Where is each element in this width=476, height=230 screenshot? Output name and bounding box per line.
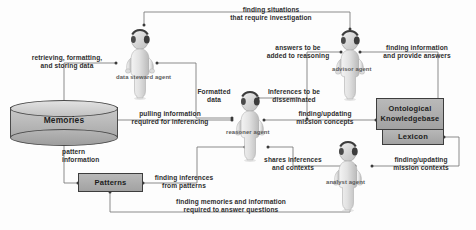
node-patterns-label: Patterns xyxy=(95,178,127,187)
node-patterns[interactable]: Patterns xyxy=(78,173,143,192)
edge-label-line2: and storing data xyxy=(12,62,122,70)
edge-label-pulling-information: pulling information required for inferen… xyxy=(120,110,220,127)
edge-label-line2: data xyxy=(190,96,238,104)
agent-data-steward-agent-caption: data steward agent xyxy=(116,74,171,80)
edge-label-finding-memories: finding memories and information require… xyxy=(140,198,322,215)
node-ontological-knowledgebase-label-line2: Knowledgebase xyxy=(381,114,440,124)
edge-label-line1: finding memories and information xyxy=(140,198,322,206)
agent-advisor-agent[interactable] xyxy=(330,29,370,101)
edge-label-line2: required to answer questions xyxy=(140,206,322,214)
edge-label-line2: information xyxy=(62,156,126,164)
edge-label-line1: finding/updating xyxy=(282,110,368,118)
edge-label-line1: Inferences to be xyxy=(253,88,335,96)
edge-label-answers-to-be-added: answers to be added to reasoning xyxy=(255,44,341,61)
agent-advisor-agent-caption: advisor agent xyxy=(332,66,372,72)
edge-label-retrieving-formatting: retrieving, formatting, and storing data xyxy=(12,54,122,71)
edge-label-pattern-information: pattern information xyxy=(62,148,126,165)
edge-label-formatted-data: Formatted data xyxy=(190,88,238,105)
agent-data-steward-agent[interactable] xyxy=(120,28,160,100)
cylinder-bottom xyxy=(10,129,118,146)
edge-label-line2: disseminated xyxy=(253,96,335,104)
edge-label-line1: pulling information xyxy=(120,110,220,118)
edge-label-line2: required for inferencing xyxy=(120,118,220,126)
node-ontological-knowledgebase[interactable]: Ontological Knowledgebase xyxy=(376,98,444,130)
diagram-canvas: .w{stroke:#777;stroke-width:.85;fill:non… xyxy=(0,0,476,230)
edge-label-line1: finding inferences xyxy=(146,174,222,182)
edge-label-line1: answers to be xyxy=(255,44,341,52)
node-memories-label: Memories xyxy=(10,115,118,125)
edge-label-line1: shares inferences xyxy=(254,156,332,164)
edge-label-finding-updating-contexts: finding/updating mission contexts xyxy=(378,156,464,173)
agent-analyst-agent[interactable] xyxy=(328,140,368,212)
edge-label-line2: and contexts xyxy=(254,164,332,172)
edge-label-finding-information: finding information and provide answers xyxy=(365,44,469,61)
edge-label-finding-situations: finding situations that require investig… xyxy=(206,6,336,23)
edge-label-line2: added to reasoning xyxy=(255,52,341,60)
edge-label-shares-inferences: shares inferences and contexts xyxy=(254,156,332,173)
agent-figure-icon xyxy=(328,140,368,212)
edge-label-line1: retrieving, formatting, xyxy=(12,54,122,62)
edge-label-line1: Formatted xyxy=(190,88,238,96)
edge-label-line2: that require investigation xyxy=(206,14,336,22)
node-lexicon-label: Lexicon xyxy=(398,132,428,141)
agent-reasoner-agent-caption: reasoner agent xyxy=(226,129,270,135)
edge-label-line2: and provide answers xyxy=(365,52,469,60)
node-ontological-knowledgebase-label-line1: Ontological xyxy=(389,104,432,114)
edge-label-line2: from patterns xyxy=(146,182,222,190)
edge-label-finding-updating-concepts: finding/updating mission concepts xyxy=(282,110,368,127)
edge-label-line2: mission contexts xyxy=(378,164,464,172)
edge-label-inferences-disseminated: Inferences to be disseminated xyxy=(253,88,335,105)
node-memories[interactable]: Memories xyxy=(10,100,118,144)
edge-label-line1: finding information xyxy=(365,44,469,52)
agent-figure-icon xyxy=(330,29,370,101)
agent-analyst-agent-caption: analyst agent xyxy=(326,179,365,185)
edge-label-finding-inferences: finding inferences from patterns xyxy=(146,174,222,191)
node-lexicon[interactable]: Lexicon xyxy=(382,128,444,145)
edge-label-line1: finding situations xyxy=(206,6,336,14)
edge-label-line2: mission concepts xyxy=(282,118,368,126)
edge-label-line1: finding/updating xyxy=(378,156,464,164)
agent-figure-icon xyxy=(120,28,160,100)
edge-label-line1: pattern xyxy=(62,148,126,156)
